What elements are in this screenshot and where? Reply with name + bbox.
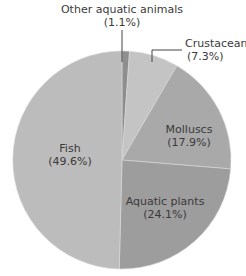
label-fish-pct: (49.6%) [48, 155, 92, 168]
label-other-pct: (1.1%) [104, 16, 141, 29]
label-crustaceans-pct: (7.3%) [187, 50, 224, 63]
label-plants-name: Aquatic plants [126, 195, 205, 208]
pie-chart: Other aquatic animals (1.1%) Crustaceans… [0, 0, 246, 276]
label-crustaceans-name: Crustaceans [185, 37, 246, 50]
label-other-name: Other aquatic animals [61, 3, 183, 16]
label-molluscs-name: Molluscs [166, 123, 213, 136]
pie-slices [13, 51, 231, 269]
label-fish-name: Fish [59, 142, 80, 155]
label-plants-pct: (24.1%) [143, 208, 187, 221]
label-molluscs-pct: (17.9%) [167, 136, 211, 149]
